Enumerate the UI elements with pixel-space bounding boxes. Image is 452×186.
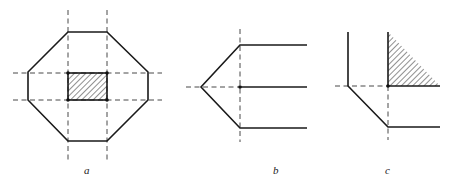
panel-label-c: c	[385, 164, 390, 176]
vertex-dot	[66, 98, 70, 102]
panel-b: b	[186, 29, 307, 176]
panel-label-a: a	[84, 164, 90, 176]
vertex-dot	[105, 98, 109, 102]
panel-c: c	[335, 32, 440, 176]
vertex-dot	[386, 84, 390, 88]
panel-a: a	[13, 10, 162, 176]
vertex-dot	[105, 71, 109, 75]
vertex-dot	[66, 71, 70, 75]
vertex-dot	[238, 85, 242, 89]
hatched-triangle	[388, 32, 440, 86]
hatched-rectangle	[68, 73, 107, 100]
panel-label-b: b	[273, 164, 279, 176]
diagram-canvas: a b c	[0, 0, 452, 186]
